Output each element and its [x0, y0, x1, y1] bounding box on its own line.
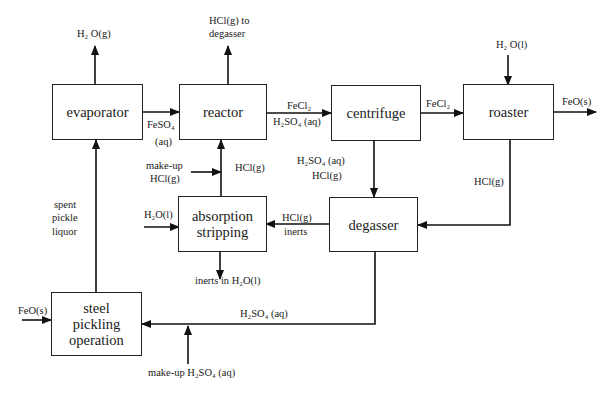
- makeup-hcl-label-2: HCl(g): [150, 173, 180, 185]
- pickling-label-2: pickling: [73, 316, 121, 332]
- degasser-gas-label-2: inerts: [284, 226, 307, 238]
- degasser-gas-label-1: HCl(g): [282, 212, 312, 224]
- spent-liquor-label-1: spent: [54, 199, 76, 211]
- process-flow-diagram: evaporator reactor centrifuge roaster ab…: [0, 0, 614, 396]
- degasser-label: degasser: [349, 217, 399, 233]
- spent-liquor-label-3: liquor: [52, 226, 77, 238]
- centrifuge-box: centrifuge: [331, 85, 421, 141]
- degasser-box: degasser: [329, 197, 418, 252]
- evaporator-box: evaporator: [52, 84, 143, 140]
- reactor-out-label-1: FeCl₂: [287, 100, 311, 112]
- spent-liquor-label-2: pickle: [52, 212, 78, 224]
- hcl-to-reactor-label: HCl(g): [235, 162, 265, 174]
- roaster-water-label: H₂ O(l): [496, 39, 527, 51]
- absorber-out-label: inerts in H₂O(l): [195, 275, 260, 287]
- absorption-label: absorption: [192, 208, 253, 224]
- feso4-label-1: FeSO₄: [147, 119, 175, 131]
- evap-vapor-label: H₂ O(g): [77, 28, 111, 40]
- centrifuge-out-label: FeCl₂: [426, 98, 450, 110]
- feo-in-label: FeO(s): [18, 305, 47, 317]
- acid-return-label: H₂SO₄ (aq): [240, 308, 288, 320]
- feso4-label-2: (aq): [155, 136, 172, 148]
- roaster-label: roaster: [489, 104, 528, 120]
- absorber-water-label: H₂O(l): [144, 209, 173, 221]
- makeup-hcl-label-1: make-up: [146, 160, 183, 172]
- absorption-stripping-box: absorption stripping: [178, 196, 267, 252]
- pickling-label-3: operation: [69, 332, 124, 348]
- roaster-hcl-label: HCl(g): [474, 176, 504, 188]
- reactor-vent-label-1: HCl(g) to: [209, 15, 250, 27]
- roaster-box: roaster: [463, 84, 554, 140]
- steel-pickling-box: steel pickling operation: [51, 292, 142, 356]
- makeup-acid-label: make-up H₂SO₄ (aq): [148, 367, 235, 379]
- centrifuge-liquor-label-1: H₂SO₄ (aq): [297, 155, 345, 167]
- evaporator-label: evaporator: [67, 104, 129, 120]
- roaster-product-label: FeO(s): [562, 96, 591, 108]
- centrifuge-label: centrifuge: [347, 105, 406, 121]
- reactor-out-label-2: H₂SO₄ (aq): [273, 116, 321, 128]
- pickling-label-1: steel: [83, 300, 110, 316]
- centrifuge-liquor-label-2: HCl(g): [312, 170, 342, 182]
- reactor-vent-label-2: degasser: [209, 28, 245, 40]
- reactor-box: reactor: [179, 84, 267, 140]
- reactor-label: reactor: [203, 104, 243, 120]
- stripping-label: stripping: [197, 224, 249, 240]
